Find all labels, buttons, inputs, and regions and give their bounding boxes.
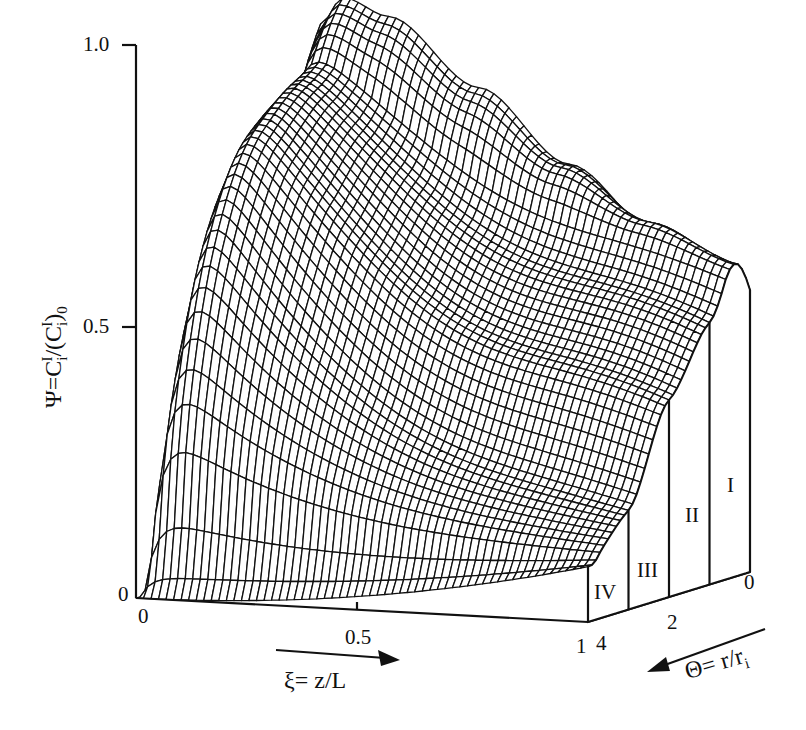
x-tick-label-05: 0.5 <box>345 627 371 648</box>
region-label-I: I <box>727 475 734 496</box>
region-label-II: II <box>685 505 699 526</box>
z-axis-title: Ψ=CiI/(CiI)0 <box>40 408 142 438</box>
xi-axis-label: ξ= z/L <box>284 668 346 692</box>
xi-arrow-shaft <box>276 650 385 658</box>
theta-arrow-head <box>647 657 670 672</box>
region-label-IV: IV <box>594 582 616 603</box>
theta-tick-label-0: 0 <box>744 572 755 593</box>
region-label-III: III <box>637 560 658 581</box>
surface-plot <box>0 0 806 730</box>
theta-tick-label-2: 2 <box>667 612 678 633</box>
z-tick-label-1: 1.0 <box>83 34 109 55</box>
z-tick-label-0: 0 <box>118 584 129 605</box>
theta-tick-label-4: 4 <box>596 633 607 654</box>
x-tick-label-0: 0 <box>138 606 149 627</box>
xi-arrow-head <box>378 650 400 666</box>
z-tick-label-05: 0.5 <box>83 316 109 337</box>
x-axis-line <box>136 598 588 622</box>
x-tick-label-1: 1 <box>576 636 587 657</box>
